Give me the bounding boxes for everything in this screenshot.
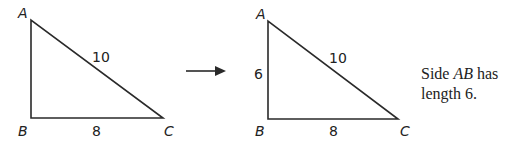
vertex-label-b: B — [255, 123, 265, 139]
triangle-left-shape — [31, 20, 163, 118]
caption: Side AB has length 6. — [421, 64, 511, 104]
right-arrow-icon — [186, 66, 226, 76]
triangle-right-shape — [268, 21, 398, 119]
vertex-label-b: B — [18, 123, 28, 139]
side-label-ac: 10 — [92, 49, 110, 65]
vertex-label-a: A — [255, 6, 266, 22]
vertex-label-c: C — [164, 123, 174, 139]
triangle-left: A B C 10 8 — [17, 5, 174, 139]
side-label-bc: 8 — [92, 123, 101, 139]
side-label-ab: 6 — [254, 66, 263, 82]
caption-line2: length 6. — [421, 85, 477, 102]
vertex-label-a: A — [17, 5, 28, 21]
triangle-right: A B C 6 10 8 — [254, 6, 410, 139]
vertex-label-c: C — [400, 123, 410, 139]
caption-prefix: Side — [421, 65, 453, 82]
caption-line1-suffix: has — [473, 65, 498, 82]
side-label-bc: 8 — [329, 123, 338, 139]
caption-side-name: AB — [453, 65, 473, 82]
side-label-ac: 10 — [329, 50, 347, 66]
